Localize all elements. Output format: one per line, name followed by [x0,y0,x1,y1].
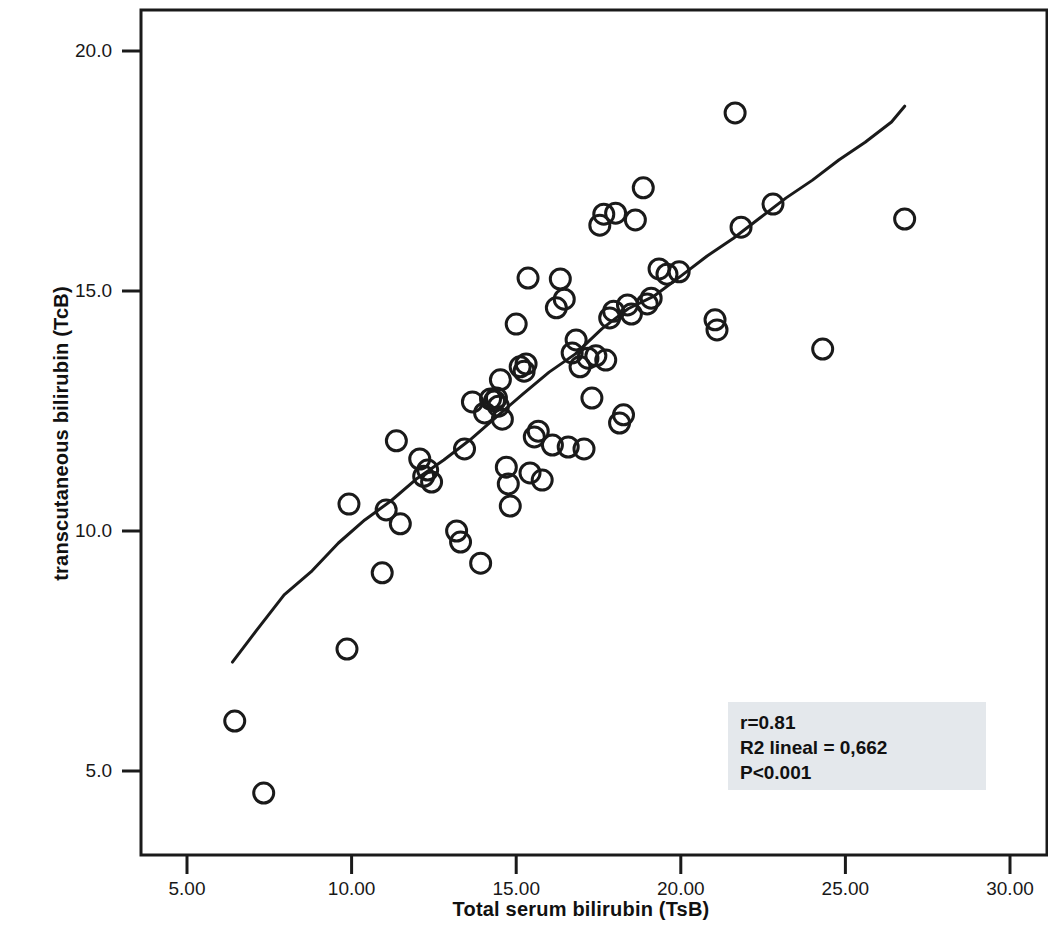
x-tick-label: 20.00 [657,878,705,900]
x-tick-label: 15.00 [492,878,540,900]
y-axis-label: transcutaneous bilirubin (TcB) [50,204,73,664]
x-tick-label: 25.00 [822,878,870,900]
scatter-plot-figure: 5.010.015.020.0 5.0010.0015.0020.0025.00… [0,0,1048,945]
x-tick-label: 5.00 [169,878,206,900]
plot-canvas [0,0,1048,945]
correlation-value: r=0.81 [740,710,986,735]
x-axis-label: Total serum bilirubin (TsB) [141,898,1021,921]
statistics-annotation-box: r=0.81 R2 lineal = 0,662 P<0.001 [728,702,986,790]
y-tick-label: 20.0 [40,40,112,62]
y-tick-label: 5.0 [40,760,112,782]
x-tick-label: 30.00 [986,878,1034,900]
r-squared-value: R2 lineal = 0,662 [740,735,986,760]
p-value: P<0.001 [740,760,986,785]
x-tick-label: 10.00 [328,878,376,900]
